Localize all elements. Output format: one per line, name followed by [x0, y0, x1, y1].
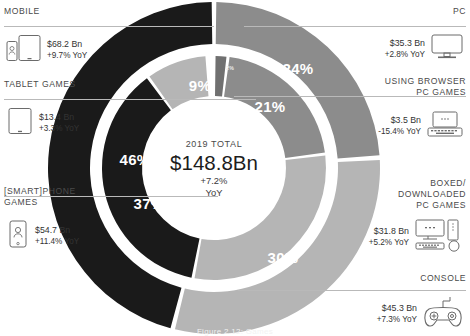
label-header-console: CONSOLE [420, 273, 466, 284]
inner-pct-browser: 2% [226, 65, 234, 71]
label-header-tablet: TABLET GAMES [4, 79, 76, 90]
legend-entry-phone[interactable]: $54.7 Bn +11.4% YoY [6, 219, 79, 253]
legend-entry-tablet[interactable]: $13.4 Bn +3.3% YoY [6, 106, 79, 140]
legend-change-pc: +2.8% YoY [385, 49, 425, 60]
inner-pct-boxed: 21% [255, 98, 286, 115]
legend-change-phone: +11.4% YoY [35, 236, 79, 247]
legend-change-boxed: +5.2% YoY [369, 237, 409, 248]
inner-pct-console: 30% [232, 203, 263, 220]
desktop-tower-icon [414, 218, 464, 256]
tablet-icon [6, 106, 34, 140]
legend-change-console: +7.3% YoY [377, 314, 417, 325]
donut-chart: 46% 24% 30% 9% 37% 2% 21% 30% 2019 TOTAL… [44, 0, 384, 336]
legend-entry-mobile[interactable]: $68.2 Bn +9.7% YoY [6, 33, 87, 67]
figure-caption: Figure 2.12: Games [0, 327, 470, 336]
leader-line-phone [4, 196, 218, 197]
inner-pct-tablet: 9% [189, 77, 211, 94]
laptop-icon [426, 109, 464, 143]
legend-value-browser: $3.5 Bn [391, 115, 421, 126]
label-header-boxed: BOXED/ DOWNLOADED PC GAMES [398, 178, 466, 211]
legend-value-boxed: $31.8 Bn [374, 226, 409, 237]
center-total-label: 2019 TOTAL $148.8Bn +7.2% YoY [159, 138, 269, 199]
leader-line-mobile [4, 26, 214, 27]
leader-line-browser [234, 96, 466, 97]
outer-pct-mobile: 46% [120, 151, 151, 168]
center-amount: $148.8Bn [159, 151, 269, 175]
legend-value-tablet: $13.4 Bn [39, 112, 74, 123]
leader-line-console [238, 290, 466, 291]
leader-line-tablet [4, 99, 256, 100]
infographic-root: 46% 24% 30% 9% 37% 2% 21% 30% 2019 TOTAL… [0, 0, 470, 336]
label-header-phone: [SMART]PHONE GAMES [4, 186, 76, 208]
legend-change-tablet: +3.3% YoY [39, 123, 79, 134]
legend-value-pc: $35.3 Bn [390, 38, 425, 49]
label-header-browser: USING BROWSER PC GAMES [385, 76, 466, 98]
legend-change-browser: -15.4% YoY [378, 126, 421, 137]
smartphone-icon [6, 219, 30, 253]
center-change: +7.2% [159, 175, 269, 187]
legend-value-mobile: $68.2 Bn [47, 39, 82, 50]
center-title: 2019 TOTAL [159, 138, 269, 151]
desktop-monitor-icon [430, 33, 464, 65]
outer-pct-pc: 24% [283, 60, 314, 77]
legend-entry-boxed[interactable]: $31.8 Bn +5.2% YoY [369, 218, 464, 256]
leader-line-pc [244, 26, 466, 27]
outer-pct-console: 30% [268, 249, 299, 266]
label-header-pc: PC [453, 6, 466, 17]
segment-inner-0 [215, 56, 226, 96]
legend-value-phone: $54.7 Bn [35, 225, 70, 236]
legend-value-console: $45.3 Bn [382, 303, 417, 314]
legend-change-mobile: +9.7% YoY [47, 50, 87, 61]
legend-entry-browser[interactable]: $3.5 Bn -15.4% YoY [378, 109, 464, 143]
label-header-mobile: MOBILE [4, 6, 40, 17]
legend-entry-pc[interactable]: $35.3 Bn +2.8% YoY [385, 33, 464, 65]
phone-tablet-icon [6, 33, 42, 67]
